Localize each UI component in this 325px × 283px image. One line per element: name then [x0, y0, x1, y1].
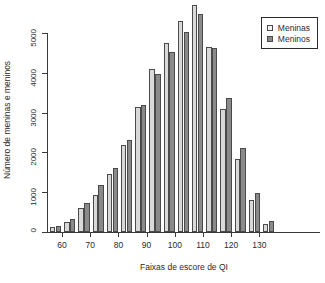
x-axis-tick	[259, 233, 260, 237]
y-axis-tick-label: 1000	[30, 188, 38, 206]
y-axis-tick-label: 0	[30, 228, 38, 232]
bar-meninas	[149, 69, 154, 232]
chart-figure: 010002000300040005000 607080901001101201…	[0, 0, 325, 283]
bar-group	[135, 8, 149, 232]
y-axis-tick-label: 2000	[30, 148, 38, 166]
legend-swatch-meninas-icon	[267, 25, 273, 31]
bar-meninos	[255, 193, 260, 232]
bar-meninas	[121, 145, 126, 232]
x-axis-tick	[203, 233, 204, 237]
x-axis-tick-label: 130	[244, 240, 274, 250]
bar-group	[234, 8, 248, 232]
bar-meninos	[269, 221, 274, 232]
y-axis-tick	[42, 113, 47, 114]
y-axis-tick	[42, 152, 47, 153]
x-axis-tick	[147, 233, 148, 237]
bar-meninas	[64, 222, 69, 232]
x-axis-tick	[175, 233, 176, 237]
x-axis-tick-label: 100	[160, 240, 190, 250]
legend-label-meninos: Meninos	[278, 34, 310, 44]
bar-group	[149, 8, 163, 232]
legend-swatch-meninos-icon	[267, 36, 273, 42]
y-axis-tick-label: 4000	[30, 69, 38, 87]
x-axis-tick-label: 90	[132, 240, 162, 250]
x-axis-tick	[231, 233, 232, 237]
bar-meninos	[141, 105, 146, 232]
x-axis-tick-label: 80	[103, 240, 133, 250]
y-axis-tick	[42, 33, 47, 34]
bar-meninas	[164, 43, 169, 232]
bar-meninas	[135, 107, 140, 232]
legend-item-meninas: Meninas	[267, 22, 310, 33]
x-axis-tick	[62, 233, 63, 237]
bar-meninas	[178, 21, 183, 232]
y-axis-line	[47, 33, 48, 233]
y-axis-tick	[42, 192, 47, 193]
chart-legend: Meninas Meninos	[261, 17, 318, 49]
bar-meninos	[70, 219, 75, 232]
bar-meninos	[113, 168, 118, 232]
bar-group	[220, 8, 234, 232]
bar-group	[106, 8, 120, 232]
bar-meninas	[107, 174, 112, 232]
bar-meninos	[240, 148, 245, 232]
bar-group	[163, 8, 177, 232]
bar-meninas	[220, 109, 225, 232]
bar-meninos	[226, 98, 231, 232]
bar-meninos	[127, 140, 132, 232]
y-axis-tick-label: 5000	[30, 29, 38, 47]
bar-group	[92, 8, 106, 232]
bar-meninos	[198, 14, 203, 232]
legend-label-meninas: Meninas	[278, 23, 310, 33]
bar-group	[177, 8, 191, 232]
y-axis-tick	[42, 232, 47, 233]
bar-meninos	[155, 74, 160, 232]
legend-item-meninos: Meninos	[267, 33, 310, 44]
bar-group	[121, 8, 135, 232]
bar-group	[192, 8, 206, 232]
bar-meninas	[93, 195, 98, 232]
bar-meninos	[98, 185, 103, 232]
x-axis-tick-label: 120	[216, 240, 246, 250]
bar-meninas	[249, 200, 254, 232]
bar-meninos	[184, 32, 189, 232]
bar-meninas	[206, 47, 211, 232]
bar-meninos	[169, 52, 174, 232]
y-axis-title: Número de meninas e meninos	[2, 50, 12, 190]
bar-meninas	[78, 208, 83, 232]
bar-meninas	[192, 5, 197, 232]
bar-meninos	[212, 48, 217, 232]
bar-group	[206, 8, 220, 232]
bar-group	[50, 8, 64, 232]
bar-meninas	[263, 224, 268, 232]
bar-group	[78, 8, 92, 232]
x-axis-tick	[90, 233, 91, 237]
bar-meninos	[84, 203, 89, 232]
x-axis-title: Faixas de escore de QI	[48, 262, 320, 272]
bar-meninas	[235, 159, 240, 232]
x-axis-tick	[118, 233, 119, 237]
y-axis-tick-label: 3000	[30, 109, 38, 127]
y-axis-tick	[42, 73, 47, 74]
bar-group	[64, 8, 78, 232]
x-axis-line	[47, 232, 320, 233]
x-axis-tick-label: 110	[188, 240, 218, 250]
x-axis-tick-label: 60	[47, 240, 77, 250]
x-axis-tick-label: 70	[75, 240, 105, 250]
